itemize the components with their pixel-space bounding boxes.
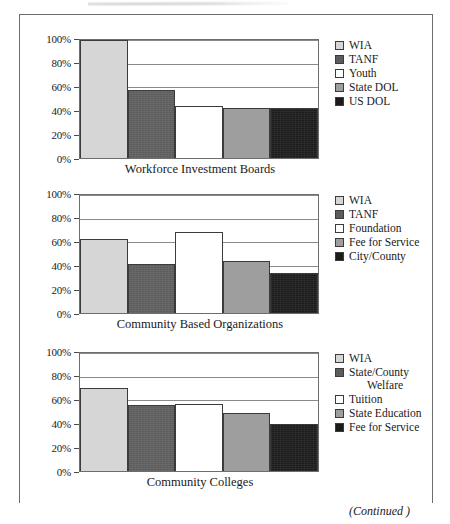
y-tick-label: 100% (46, 347, 71, 358)
legend-item: WIA (335, 39, 435, 52)
bar-fee-for-service (270, 424, 318, 471)
legend-label: Foundation (349, 222, 401, 235)
bar-us-dol (270, 108, 318, 158)
bar-state-county-welfare (128, 405, 176, 471)
legend-swatch-icon (335, 224, 344, 233)
chart-caption-1: Community Based Organizations (60, 318, 340, 331)
bar-wia (80, 239, 128, 313)
legend-label: Fee for Service (349, 236, 419, 249)
y-tick-label: 80% (51, 213, 71, 224)
y-tick-label: 60% (51, 395, 71, 406)
y-tick-mark (74, 424, 79, 425)
plot-area-wrapper-1: 0%20%40%60%80%100% (79, 194, 319, 314)
continued-note: (Continued ) (349, 504, 410, 519)
bar-group-2 (80, 353, 318, 471)
legend-swatch-icon (335, 395, 344, 404)
bar-slot (128, 195, 176, 313)
y-tick-mark (74, 111, 79, 112)
legend-item: TANF (335, 208, 435, 221)
chart-panel-community-based-organizations: 0%20%40%60%80%100% Community Based Organ… (20, 180, 434, 330)
legend-item: State/CountyWelfare (335, 366, 435, 392)
legend-item: Tuition (335, 393, 435, 406)
legend-label: State/CountyWelfare (349, 366, 409, 392)
y-tick-label: 80% (51, 58, 71, 69)
bar-tanf (128, 264, 176, 313)
legend-swatch-icon (335, 354, 344, 363)
bar-group-1 (80, 195, 318, 313)
legend-swatch-icon (335, 238, 344, 247)
bar-state-dol (223, 108, 271, 158)
y-tick-label: 100% (46, 34, 71, 45)
legend-label-line2: Welfare (349, 379, 409, 392)
chart-caption-2: Community Colleges (60, 476, 340, 489)
legend-swatch-icon (335, 83, 344, 92)
legend-1: WIATANFFoundationFee for ServiceCity/Cou… (335, 194, 435, 264)
legend-item: State Education (335, 407, 435, 420)
y-tick-label: 40% (51, 419, 71, 430)
bar-group-0 (80, 40, 318, 158)
figure-frame: 0%20%40%60%80%100% Workforce Investment … (19, 14, 433, 503)
legend-2: WIAState/CountyWelfareTuitionState Educa… (335, 352, 435, 435)
bar-slot (175, 40, 223, 158)
chart-panel-community-colleges: 0%20%40%60%80%100% Community Colleges WI… (20, 338, 434, 488)
legend-item: Youth (335, 67, 435, 80)
plot-area-2 (79, 352, 319, 472)
y-tick-mark (74, 352, 79, 353)
y-tick-mark (74, 218, 79, 219)
bar-slot (175, 195, 223, 313)
chart-caption-0: Workforce Investment Boards (60, 163, 340, 176)
legend-label: WIA (349, 39, 372, 52)
legend-label: City/County (349, 250, 406, 263)
plot-area-0 (79, 39, 319, 159)
bar-tuition (175, 404, 223, 471)
bar-fee-for-service (223, 261, 271, 314)
y-tick-label: 100% (46, 189, 71, 200)
y-tick-mark (74, 472, 79, 473)
y-tick-mark (74, 242, 79, 243)
legend-item: WIA (335, 352, 435, 365)
y-tick-mark (74, 266, 79, 267)
y-tick-mark (74, 194, 79, 195)
y-tick-label: 40% (51, 106, 71, 117)
y-tick-mark (74, 448, 79, 449)
legend-label: Fee for Service (349, 421, 419, 434)
plot-area-1 (79, 194, 319, 314)
legend-label: State Education (349, 407, 422, 420)
legend-swatch-icon (335, 252, 344, 261)
legend-swatch-icon (335, 196, 344, 205)
y-tick-label: 20% (51, 443, 71, 454)
bar-slot (270, 353, 318, 471)
legend-item: Foundation (335, 222, 435, 235)
scan-artifact-smudge (88, 1, 288, 7)
y-tick-mark (74, 159, 79, 160)
bar-slot (80, 40, 128, 158)
legend-item: TANF (335, 53, 435, 66)
bar-slot (128, 40, 176, 158)
legend-swatch-icon (335, 69, 344, 78)
legend-item: State DOL (335, 81, 435, 94)
bar-wia (80, 40, 128, 158)
bar-slot (128, 353, 176, 471)
bar-tanf (128, 90, 176, 158)
legend-label: WIA (349, 352, 372, 365)
legend-item: WIA (335, 194, 435, 207)
y-tick-label: 20% (51, 285, 71, 296)
legend-swatch-icon (335, 55, 344, 64)
legend-label: Youth (349, 67, 377, 80)
bar-slot (175, 353, 223, 471)
bar-foundation (175, 232, 223, 313)
y-tick-mark (74, 63, 79, 64)
y-tick-label: 60% (51, 237, 71, 248)
y-tick-mark (74, 87, 79, 88)
y-tick-mark (74, 376, 79, 377)
y-tick-mark (74, 290, 79, 291)
legend-item: Fee for Service (335, 236, 435, 249)
chart-panel-workforce-investment-boards: 0%20%40%60%80%100% Workforce Investment … (20, 25, 434, 175)
bar-slot (270, 40, 318, 158)
legend-swatch-icon (335, 423, 344, 432)
y-tick-label: 80% (51, 371, 71, 382)
bar-slot (223, 195, 271, 313)
legend-swatch-icon (335, 97, 344, 106)
legend-swatch-icon (335, 409, 344, 418)
bar-state-education (223, 413, 271, 471)
